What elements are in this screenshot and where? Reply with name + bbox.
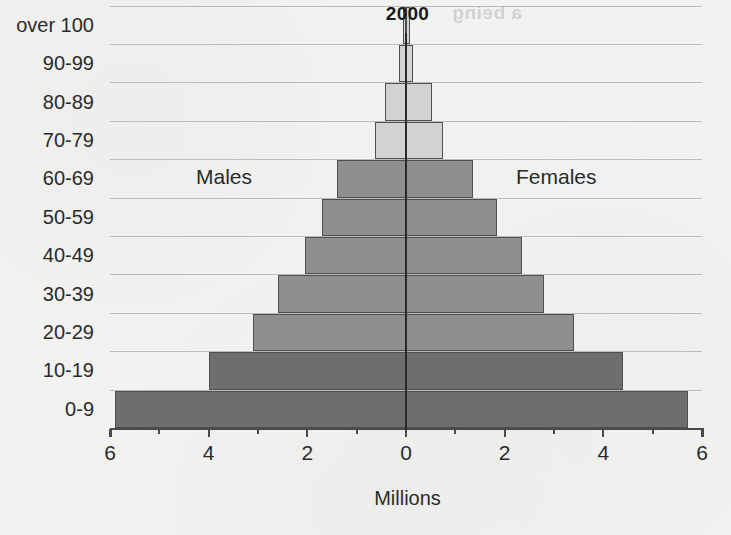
x-tick [208, 429, 210, 437]
x-tick-label: 6 [80, 441, 140, 465]
chart-title-text: 2000 [386, 3, 429, 24]
x-axis-right-cap [702, 428, 704, 437]
population-pyramid-figure: a being 2000 0-910-1920-2930-3940-4950-5… [0, 0, 731, 535]
age-band-label-10-19: 10-19 [43, 360, 94, 380]
age-band-label-60-69: 60-69 [43, 168, 94, 188]
bar-males-0-9 [115, 391, 406, 428]
age-band-label-0-9: 0-9 [65, 399, 94, 419]
bar-males-40-49 [305, 237, 406, 274]
bar-males-70-79 [375, 122, 406, 159]
chart-title: 2000 [0, 3, 731, 25]
x-tick-minor [356, 429, 358, 434]
bar-females-0-9 [406, 391, 688, 428]
x-tick-label: 4 [573, 441, 633, 465]
x-tick-label: 0 [376, 441, 436, 465]
x-tick-minor [454, 429, 456, 434]
x-tick-minor [652, 429, 654, 434]
bar-females-50-59 [406, 199, 497, 236]
age-band-label-30-39: 30-39 [43, 284, 94, 304]
age-band-label-40-49: 40-49 [43, 245, 94, 265]
bar-females-30-39 [406, 275, 544, 312]
age-band-label-80-89: 80-89 [43, 92, 94, 112]
bar-males-50-59 [322, 199, 406, 236]
zero-axis-line [405, 33, 407, 430]
x-tick [602, 429, 604, 437]
bar-males-80-89 [385, 83, 406, 120]
x-tick-label: 2 [475, 441, 535, 465]
bar-males-10-19 [209, 352, 406, 389]
bar-females-20-29 [406, 314, 574, 351]
x-tick-minor [158, 429, 160, 434]
bar-females-80-89 [406, 83, 432, 120]
bar-females-60-69 [406, 160, 473, 197]
x-axis-left-cap [110, 428, 112, 437]
age-band-label-50-59: 50-59 [43, 207, 94, 227]
bar-females-10-19 [406, 352, 623, 389]
bar-females-70-79 [406, 122, 443, 159]
age-band-label-70-79: 70-79 [43, 130, 94, 150]
x-tick [405, 429, 407, 437]
bar-males-30-39 [278, 275, 406, 312]
plot-area: 0-910-1920-2930-3940-4950-5960-6970-7980… [0, 0, 731, 535]
age-band-label-20-29: 20-29 [43, 322, 94, 342]
bar-males-20-29 [253, 314, 406, 351]
x-tick-label: 6 [672, 441, 731, 465]
x-tick [306, 429, 308, 437]
bar-males-60-69 [337, 160, 406, 197]
x-tick-label: 4 [179, 441, 239, 465]
x-tick [504, 429, 506, 437]
x-tick-label: 2 [277, 441, 337, 465]
x-tick-minor [257, 429, 259, 434]
bar-females-40-49 [406, 237, 522, 274]
x-tick-minor [553, 429, 555, 434]
age-band-label-90-99: 90-99 [43, 53, 94, 73]
bar-females-90-99 [406, 45, 413, 82]
